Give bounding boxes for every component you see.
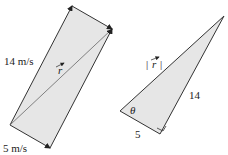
label-5ms: 5 m/s [3,142,27,154]
label-14: 14 [189,89,201,101]
svg-text:|: | [146,58,148,70]
label-5: 5 [135,128,141,140]
svg-text:|: | [160,58,162,70]
right-triangle [120,16,224,134]
label-14ms: 14 m/s [4,55,34,67]
velocity-parallelogram [10,6,112,148]
hypotenuse-label: | r | [146,57,162,70]
svg-text:r: r [152,58,157,70]
vector-diagram: 14 m/s 5 m/s r | r | 14 5 θ [0,0,228,155]
angle-theta-label: θ [130,104,136,116]
triangle-shape [120,16,224,134]
